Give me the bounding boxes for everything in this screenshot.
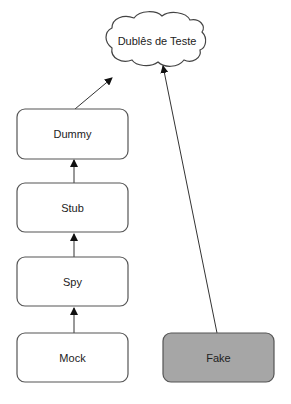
diagram-canvas: Dublês de Teste Dummy Stub Spy Mock Fake bbox=[0, 0, 291, 404]
edge-dummy-to-root bbox=[75, 78, 112, 109]
node-mock[interactable]: Mock bbox=[17, 333, 128, 382]
node-fake-label: Fake bbox=[206, 352, 230, 364]
edge-fake-to-root bbox=[163, 66, 217, 333]
node-spy-label: Spy bbox=[63, 276, 82, 288]
node-dummy[interactable]: Dummy bbox=[17, 109, 128, 159]
node-stub-label: Stub bbox=[61, 202, 84, 214]
cloud-dubles-de-teste[interactable]: Dublês de Teste bbox=[106, 12, 206, 67]
node-dummy-label: Dummy bbox=[54, 128, 92, 140]
node-stub[interactable]: Stub bbox=[17, 183, 128, 232]
node-mock-label: Mock bbox=[59, 352, 86, 364]
cloud-label: Dublês de Teste bbox=[118, 35, 197, 47]
node-fake[interactable]: Fake bbox=[163, 333, 274, 382]
node-spy[interactable]: Spy bbox=[17, 257, 128, 306]
